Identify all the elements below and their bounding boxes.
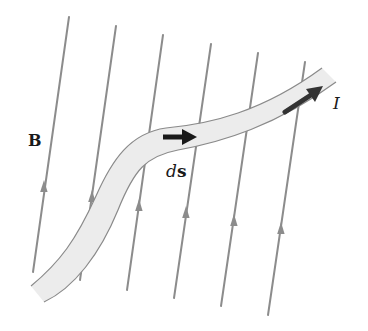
field-arrow-icon xyxy=(230,214,237,226)
current-label: I xyxy=(333,95,340,112)
field-arrow-icon xyxy=(182,206,189,218)
magnetic-field-label: B xyxy=(28,133,42,149)
ds-d: d xyxy=(166,161,177,181)
length-element-label: ds xyxy=(166,163,186,180)
field-arrowheads xyxy=(40,180,284,234)
diagram-canvas: B ds I xyxy=(0,0,368,331)
field-arrow-icon xyxy=(277,222,284,234)
wire xyxy=(31,68,336,302)
ds-s: s xyxy=(177,161,187,181)
wire-body xyxy=(31,68,336,302)
field-arrow-icon xyxy=(135,199,142,211)
field-line xyxy=(221,53,258,306)
